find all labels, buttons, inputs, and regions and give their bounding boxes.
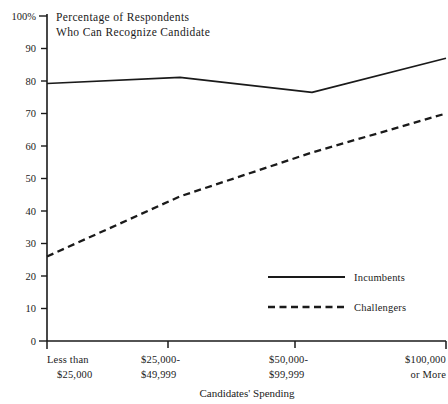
y-tick-label-60: 60 — [26, 141, 37, 152]
x-category-label-4-line-2: or More — [410, 369, 446, 380]
x-category-label-2-line-2: $49,999 — [141, 369, 177, 380]
y-tick-label-20: 20 — [26, 271, 37, 282]
chart-canvas: 100% 90 80 70 60 50 40 30 20 10 0 Percen… — [0, 0, 448, 404]
y-tick-label-100: 100% — [12, 11, 37, 22]
plot-title-line-1: Percentage of Respondents — [56, 11, 189, 24]
x-axis-ticks — [47, 341, 446, 349]
legend-label-challengers: Challengers — [354, 302, 406, 313]
x-category-label-2-line-1: $25,000- — [141, 354, 181, 365]
y-tick-label-30: 30 — [26, 238, 37, 249]
x-axis-title: Candidates' Spending — [199, 387, 295, 399]
series-line-incumbents — [47, 58, 446, 92]
y-tick-label-10: 10 — [26, 303, 37, 314]
plot-title-line-2: Who Can Recognize Candidate — [56, 26, 210, 39]
x-category-label-1-line-1: Less than — [47, 354, 89, 365]
y-tick-label-70: 70 — [26, 108, 37, 119]
y-tick-label-40: 40 — [26, 206, 37, 217]
x-category-label-1-line-2: $25,000 — [57, 369, 93, 380]
series-line-challengers — [47, 114, 446, 257]
x-category-labels: Less than $25,000 $25,000- $49,999 $50,0… — [47, 354, 446, 380]
y-tick-label-90: 90 — [26, 43, 37, 54]
y-axis-ticks — [39, 16, 47, 341]
x-category-label-4-line-1: $100,000 — [405, 354, 446, 365]
chart-legend: Incumbents Challengers — [268, 272, 406, 313]
legend-label-incumbents: Incumbents — [354, 272, 405, 283]
x-category-label-3-line-1: $50,000- — [269, 354, 309, 365]
line-chart: 100% 90 80 70 60 50 40 30 20 10 0 Percen… — [0, 0, 448, 404]
x-category-label-3-line-2: $99,999 — [269, 369, 305, 380]
y-tick-label-80: 80 — [26, 76, 37, 87]
y-tick-label-0: 0 — [31, 336, 36, 347]
y-tick-label-50: 50 — [26, 173, 37, 184]
